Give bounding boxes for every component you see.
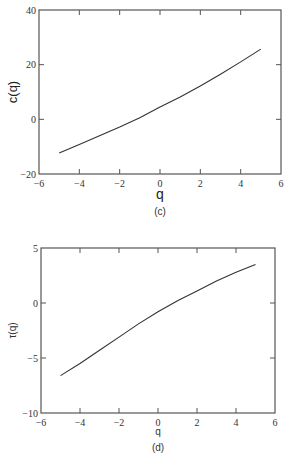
data-line (59, 49, 261, 153)
x-tick-label: 4 (238, 178, 243, 189)
y-axis-label: τ(q) (7, 322, 18, 338)
x-tick-label: 2 (198, 178, 203, 189)
chart-panel-d: −6−4−20246−10−505qτ(q)(d) (7, 243, 278, 454)
y-tick-label: 5 (33, 243, 38, 254)
figure: −6−4−20246−2002040qc(q)(c) −6−4−20246−10… (0, 0, 291, 471)
y-tick-label: −5 (27, 353, 38, 364)
y-tick-label: 0 (33, 298, 38, 309)
plot-frame (41, 248, 275, 413)
plot-frame (39, 10, 281, 174)
y-axis-label: c(q) (5, 81, 20, 103)
panel-caption: (d) (152, 442, 164, 453)
x-tick-label: 4 (234, 417, 239, 428)
x-tick-label: −6 (36, 417, 47, 428)
chart-panel-c: −6−4−20246−2002040qc(q)(c) (5, 5, 284, 218)
panel-caption: (c) (154, 206, 166, 217)
x-axis-label: q (156, 186, 164, 202)
x-tick-label: 2 (195, 417, 200, 428)
y-tick-label: 40 (26, 5, 36, 16)
x-tick-label: −4 (75, 417, 86, 428)
y-tick-label: −10 (22, 408, 38, 419)
y-tick-label: −20 (20, 169, 36, 180)
y-tick-label: 0 (31, 114, 36, 125)
y-tick-label: 20 (26, 59, 36, 70)
x-axis-label: q (155, 426, 161, 437)
data-line (61, 265, 256, 376)
x-tick-label: −4 (74, 178, 85, 189)
x-tick-label: 6 (279, 178, 284, 189)
x-tick-label: 6 (273, 417, 278, 428)
x-tick-label: −2 (114, 417, 125, 428)
x-tick-label: −6 (34, 178, 45, 189)
x-tick-label: −2 (114, 178, 125, 189)
